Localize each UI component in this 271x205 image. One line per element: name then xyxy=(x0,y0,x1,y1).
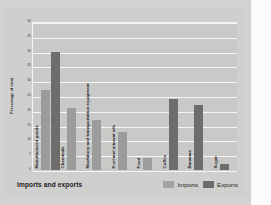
x-axis-category-label: Chemicals xyxy=(60,146,64,168)
x-axis-category-label: Machinery and transportation equipment xyxy=(86,83,90,168)
chart-figure: Percentage of total 05101520253035404550… xyxy=(5,9,246,197)
legend-label-imports: Imports xyxy=(177,181,198,188)
x-axis-category-label: Bananas xyxy=(188,150,192,168)
legend-label-exports: Exports xyxy=(217,181,238,188)
legend-item-exports: Exports xyxy=(203,181,238,188)
bar-imports[interactable] xyxy=(143,158,152,170)
y-axis-tick-label: 25 xyxy=(27,94,31,97)
screenshot-root: Percentage of total 05101520253035404550… xyxy=(0,0,271,205)
bar-imports[interactable] xyxy=(67,108,76,170)
y-axis-tick-label: 35 xyxy=(27,65,31,68)
x-axis-category-label: Manufactured goods xyxy=(35,125,39,168)
bar-group: Coffee xyxy=(160,22,186,170)
legend-swatch-imports xyxy=(163,181,174,188)
y-axis-tick-label: 40 xyxy=(27,50,31,53)
y-axis-tick-label: 50 xyxy=(27,20,31,23)
x-axis-category-label: Food xyxy=(137,157,141,168)
bar-imports[interactable] xyxy=(118,132,127,170)
bar-group: Manufactured goods xyxy=(32,22,58,170)
x-axis-category-label: Fuel and mineral oils xyxy=(111,124,115,168)
y-axis: 05101520253035404550 xyxy=(19,22,32,170)
bar-group: Chemicals xyxy=(58,22,84,170)
bar-group: Sugar xyxy=(211,22,237,170)
y-axis-title-text: Percentage of total xyxy=(10,78,14,114)
bar-exports[interactable] xyxy=(220,164,229,170)
y-axis-tick-label: 5 xyxy=(29,153,31,156)
figure-footer: Imports and exports Imports Exports xyxy=(5,172,246,197)
figure-title: Imports and exports xyxy=(17,181,82,188)
x-axis-category-label: Sugar xyxy=(213,156,217,168)
y-axis-tick-label: 10 xyxy=(27,139,31,142)
bar-group: Fuel and mineral oils xyxy=(109,22,135,170)
bar-exports[interactable] xyxy=(169,99,178,170)
y-axis-tick-label: 15 xyxy=(27,124,31,127)
bar-imports[interactable] xyxy=(92,120,101,170)
y-axis-tick-label: 45 xyxy=(27,35,31,38)
y-axis-tick-label: 20 xyxy=(27,109,31,112)
chart-legend: Imports Exports xyxy=(163,181,238,188)
x-axis-category-label: Coffee xyxy=(162,154,166,168)
legend-item-imports: Imports xyxy=(163,181,198,188)
bar-group: Machinery and transportation equipment xyxy=(83,22,109,170)
y-axis-tick-label: 30 xyxy=(27,79,31,82)
bar-group: Bananas xyxy=(185,22,211,170)
bar-series-layer: Manufactured goodsChemicalsMachinery and… xyxy=(32,22,236,170)
bar-imports[interactable] xyxy=(41,90,50,170)
right-side-panel xyxy=(251,0,271,205)
bar-group: Food xyxy=(134,22,160,170)
bar-exports[interactable] xyxy=(194,105,203,170)
legend-swatch-exports xyxy=(203,181,214,188)
y-axis-title: Percentage of total xyxy=(7,22,16,170)
